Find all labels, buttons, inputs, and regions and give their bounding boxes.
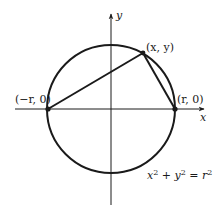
chord-top-to-right <box>143 53 175 109</box>
chord-left-to-top <box>48 53 143 109</box>
circle-equation: x2 + y2 = r2 <box>147 168 212 182</box>
y-axis-label: y <box>115 9 123 22</box>
point-top <box>141 51 146 56</box>
x-axis-label: x <box>200 111 207 124</box>
point-label-right: (r, 0) <box>177 93 204 106</box>
eq-plus: + <box>158 169 174 182</box>
point-left <box>45 106 50 111</box>
point-label-left: (−r, 0) <box>15 93 51 106</box>
eq-equals: = <box>186 169 202 182</box>
point-label-top: (x, y) <box>146 41 174 54</box>
circle-diagram: y x (x, y) (−r, 0) (r, 0) x2 + y2 = r2 <box>0 0 216 214</box>
point-right <box>172 106 177 111</box>
eq-r-exp: 2 <box>207 168 212 177</box>
